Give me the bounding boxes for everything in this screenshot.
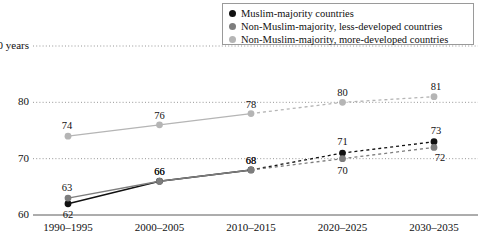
data-point-label: 71 <box>329 136 357 147</box>
data-point-label: 66 <box>146 166 174 177</box>
y-axis-tick-label: 90 years <box>0 39 29 51</box>
legend-item-nonmuslim-less-developed: Non-Muslim-majority, less-developed coun… <box>229 20 467 33</box>
data-point-label: 74 <box>53 120 81 131</box>
x-axis-tick-label: 2000–2005 <box>115 221 205 233</box>
y-axis-tick-label: 60 <box>18 208 29 220</box>
life-expectancy-line-chart: 90 years807060 1990–19952000–20052010–20… <box>0 0 482 241</box>
data-point-label: 63 <box>53 182 81 193</box>
legend-item-label: Non-Muslim-majority, less-developed coun… <box>241 20 442 33</box>
data-point-label: 76 <box>146 110 174 121</box>
x-axis-tick-label: 2030–2035 <box>389 221 479 233</box>
y-axis-tick-label: 70 <box>18 152 29 164</box>
legend: Muslim-majority countries Non-Muslim-maj… <box>222 3 474 45</box>
series-markers <box>65 93 438 207</box>
data-point-label: 68 <box>237 155 265 166</box>
data-point-label: 78 <box>237 99 265 110</box>
data-point-label: 73 <box>422 125 450 136</box>
data-point-label: 81 <box>422 81 450 92</box>
legend-marker-icon <box>229 23 236 30</box>
legend-item-muslim-majority: Muslim-majority countries <box>229 7 467 20</box>
legend-item-label: Non-Muslim-majority, more-developed coun… <box>241 33 448 46</box>
legend-item-label: Muslim-majority countries <box>241 7 354 20</box>
x-axis-tick-label: 2020–2025 <box>298 221 388 233</box>
y-axis-tick-label: 80 <box>18 95 29 107</box>
legend-item-nonmuslim-more-developed: Non-Muslim-majority, more-developed coun… <box>229 33 467 46</box>
data-point-label: 80 <box>329 87 357 98</box>
data-point-label: 62 <box>54 209 82 220</box>
x-axis-tick-label: 2010–2015 <box>206 221 296 233</box>
x-axis-tick-label: 1990–1995 <box>23 221 113 233</box>
data-point-label: 72 <box>426 152 454 163</box>
legend-marker-icon <box>229 10 236 17</box>
legend-marker-icon <box>229 36 236 43</box>
data-point-label: 70 <box>329 165 357 176</box>
